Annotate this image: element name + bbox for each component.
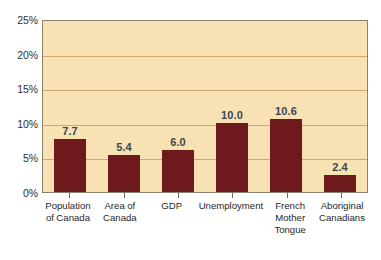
bar[interactable]	[108, 155, 140, 192]
x-axis-category-label-line: Canadians	[317, 212, 367, 224]
bar-slot: 2.4	[313, 21, 367, 192]
x-axis-category-label: FrenchMotherTongue	[264, 200, 316, 237]
bar-value-label: 2.4	[313, 161, 367, 173]
x-axis-tick	[69, 193, 70, 198]
bar-value-label: 7.7	[43, 125, 97, 137]
y-axis-tick-label: 15%	[4, 84, 38, 95]
bar[interactable]	[162, 150, 194, 192]
x-axis-category-label-line: French	[265, 200, 315, 212]
y-axis-tick-label: 25%	[4, 15, 38, 26]
bar-value-label: 6.0	[151, 136, 205, 148]
bar-value-label: 10.6	[259, 105, 313, 117]
x-axis-category-label-line: Population	[43, 200, 93, 212]
bar-slot: 7.7	[43, 21, 97, 192]
x-axis-tick	[178, 193, 179, 198]
bar-series: 7.75.46.010.010.62.4	[43, 21, 367, 192]
x-axis-category-labels: Populationof CanadaArea ofCanadaGDPUnemp…	[42, 200, 368, 258]
bar[interactable]	[324, 175, 356, 192]
x-axis-category-label-line: Canada	[95, 212, 145, 224]
y-axis-tick-label: 20%	[4, 49, 38, 60]
x-axis-category-label-line: Area of	[95, 200, 145, 212]
bar-chart-figure: 0%5%10%15%20%25% 7.75.46.010.010.62.4 Po…	[0, 0, 381, 260]
x-axis-category-label-line: GDP	[147, 200, 197, 212]
x-axis-category-label: AboriginalCanadians	[316, 200, 368, 224]
x-axis-tick	[341, 193, 342, 198]
bar-value-label: 5.4	[97, 141, 151, 153]
x-axis-tick	[287, 193, 288, 198]
x-axis-tick	[124, 193, 125, 198]
x-axis-category-label: Unemployment	[198, 200, 265, 212]
bar[interactable]	[270, 119, 302, 192]
x-axis-category-label-line: Tongue	[265, 224, 315, 236]
y-axis-tick-label: 5%	[4, 153, 38, 164]
x-axis-category-label-line: Mother	[265, 212, 315, 224]
y-axis-tick-labels: 0%5%10%15%20%25%	[2, 0, 38, 260]
bar-value-label: 10.0	[205, 109, 259, 121]
x-axis-category-label-line: Aboriginal	[317, 200, 367, 212]
x-axis-category-label-line: Unemployment	[199, 200, 264, 212]
y-axis-tick-label: 0%	[4, 188, 38, 199]
bar[interactable]	[216, 123, 248, 192]
bar-slot: 10.0	[205, 21, 259, 192]
x-axis-category-label: Area ofCanada	[94, 200, 146, 224]
x-axis-category-label: Populationof Canada	[42, 200, 94, 224]
bar[interactable]	[54, 139, 86, 192]
bar-slot: 5.4	[97, 21, 151, 192]
bar-slot: 6.0	[151, 21, 205, 192]
x-axis-category-label: GDP	[146, 200, 198, 212]
x-axis-ticks	[42, 193, 368, 199]
y-axis-tick-label: 10%	[4, 118, 38, 129]
plot-area: 7.75.46.010.010.62.4	[42, 20, 368, 193]
x-axis-category-label-line: of Canada	[43, 212, 93, 224]
bar-slot: 10.6	[259, 21, 313, 192]
x-axis-tick	[232, 193, 233, 198]
